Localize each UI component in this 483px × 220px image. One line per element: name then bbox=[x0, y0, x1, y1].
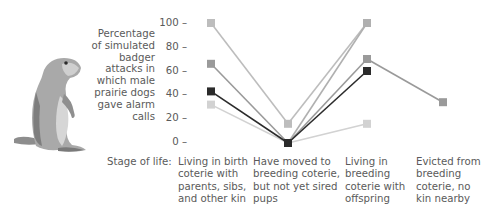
category-label-moved: Have moved to breeding coterie, but not … bbox=[253, 156, 340, 205]
category-label-line: coterie with bbox=[178, 168, 248, 180]
series-line bbox=[288, 124, 367, 143]
data-point-marker bbox=[207, 60, 215, 68]
data-point-marker bbox=[207, 19, 215, 27]
data-point-marker bbox=[363, 55, 371, 63]
data-point-marker bbox=[439, 98, 447, 106]
category-label-birth-coterie: Living in birth coterie with parents, si… bbox=[178, 156, 248, 205]
series-line bbox=[288, 59, 367, 143]
category-label-line: but not yet sired bbox=[253, 181, 340, 193]
series-line bbox=[211, 105, 288, 143]
data-point-marker bbox=[207, 87, 215, 95]
data-point-marker bbox=[284, 139, 292, 147]
category-label-line: coterie, no bbox=[416, 181, 481, 193]
category-label-line: Living in birth bbox=[178, 156, 248, 168]
category-label-line: pups bbox=[253, 193, 340, 205]
series-line bbox=[211, 23, 288, 124]
series-line bbox=[211, 64, 288, 143]
category-label-line: and other kin bbox=[178, 193, 248, 205]
category-label-line: parents, sibs, bbox=[178, 181, 248, 193]
data-point-marker bbox=[363, 19, 371, 27]
category-label-line: Evicted from bbox=[416, 156, 481, 168]
category-label-line: Living in bbox=[345, 156, 405, 168]
data-point-marker bbox=[363, 120, 371, 128]
category-label-line: breeding coterie, bbox=[253, 168, 340, 180]
category-label-line: kin nearby bbox=[416, 193, 481, 205]
category-label-line: breeding bbox=[416, 168, 481, 180]
data-point-marker bbox=[284, 120, 292, 128]
series-line bbox=[288, 23, 367, 124]
category-label-line: offspring bbox=[345, 193, 405, 205]
category-label-line: breeding bbox=[345, 168, 405, 180]
series-line bbox=[367, 59, 443, 102]
series-line bbox=[288, 23, 367, 143]
category-label-line: Have moved to bbox=[253, 156, 340, 168]
series-line bbox=[211, 91, 288, 143]
data-point-marker bbox=[207, 101, 215, 109]
category-label-line: coterie with bbox=[345, 181, 405, 193]
category-label-evicted: Evicted from breeding coterie, no kin ne… bbox=[416, 156, 481, 205]
x-axis-label: Stage of life: bbox=[107, 156, 172, 167]
data-point-marker bbox=[363, 67, 371, 75]
category-label-offspring: Living in breeding coterie with offsprin… bbox=[345, 156, 405, 205]
